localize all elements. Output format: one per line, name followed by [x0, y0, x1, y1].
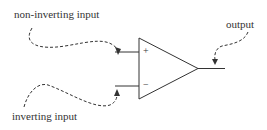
arrowhead-icon [114, 89, 120, 96]
arrowhead-icon [115, 47, 121, 55]
output-arrow [215, 32, 248, 60]
non-inverting-label: non-inverting input [14, 9, 99, 20]
plus-sign: + [143, 46, 149, 56]
minus-sign: − [143, 80, 149, 90]
arrowhead-icon [212, 59, 218, 65]
op-amp-diagram: non-inverting input inverting input outp… [0, 0, 267, 130]
inverting-arrow [24, 84, 117, 107]
non-inverting-arrow [29, 28, 118, 50]
output-label: output [226, 19, 254, 30]
inverting-label: inverting input [12, 111, 77, 122]
